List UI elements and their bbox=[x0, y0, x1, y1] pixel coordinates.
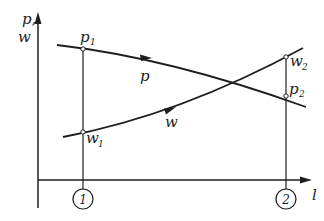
svg-text:2: 2 bbox=[301, 62, 308, 72]
svg-text:1: 1 bbox=[98, 139, 104, 149]
y-axis-label-p: p, bbox=[22, 10, 36, 28]
section-marker-2: 2 bbox=[276, 189, 296, 209]
point-p1 bbox=[81, 47, 85, 51]
svg-text:2: 2 bbox=[298, 89, 305, 99]
point-w1 bbox=[81, 130, 85, 134]
point-w2 bbox=[284, 55, 288, 59]
p-w-diagram: p, w l p w p 1 w 1 w 2 p 2 1 2 bbox=[0, 0, 324, 221]
svg-text:1: 1 bbox=[90, 37, 96, 47]
axes bbox=[35, 12, 313, 208]
label-w1: w 1 bbox=[86, 129, 104, 149]
x-axis-label: l bbox=[312, 186, 317, 204]
curve-w-label: w bbox=[165, 113, 178, 131]
curve-p bbox=[57, 45, 306, 107]
svg-text:2: 2 bbox=[281, 193, 290, 207]
label-p1: p 1 bbox=[80, 28, 96, 47]
point-p2 bbox=[284, 94, 288, 98]
label-w2: w 2 bbox=[290, 52, 308, 72]
svg-text:p: p bbox=[289, 80, 299, 98]
section-marker-1: 1 bbox=[73, 189, 93, 209]
y-axis-label-w: w bbox=[18, 28, 31, 46]
label-p2: p 2 bbox=[289, 80, 305, 99]
curve-p-label: p bbox=[140, 67, 150, 85]
svg-text:p: p bbox=[80, 28, 90, 46]
curve-w bbox=[63, 48, 303, 137]
svg-text:1: 1 bbox=[79, 193, 87, 207]
x-axis-arrow-icon bbox=[300, 177, 312, 184]
